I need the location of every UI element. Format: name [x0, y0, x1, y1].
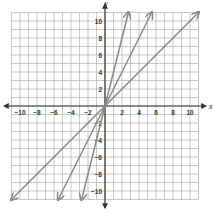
y-tick-label: 6 — [98, 52, 102, 59]
x-tick-label: −8 — [33, 109, 41, 116]
x-tick-label: 6 — [154, 109, 158, 116]
y-tick-label: −6 — [95, 154, 103, 161]
x-tick-label: 8 — [171, 109, 175, 116]
y-tick-label: −10 — [91, 188, 102, 195]
y-tick-label: −8 — [95, 171, 103, 178]
x-tick-label: 2 — [120, 109, 124, 116]
coordinate-plane: xy−10−8−6−4−2246810−10−8−6−4−2246810 — [0, 0, 213, 213]
y-tick-label: 10 — [95, 18, 103, 25]
y-tick-label: 4 — [98, 69, 102, 76]
x-tick-label: −4 — [67, 109, 75, 116]
x-tick-label: 10 — [186, 109, 194, 116]
y-tick-label: 2 — [98, 86, 102, 93]
x-tick-label: −6 — [50, 109, 58, 116]
x-tick-label: 4 — [137, 109, 141, 116]
x-tick-label: −10 — [14, 109, 25, 116]
y-axis-label: y — [103, 0, 108, 8]
x-tick-label: −2 — [84, 109, 92, 116]
y-tick-label: 8 — [98, 35, 102, 42]
x-axis-label: x — [208, 102, 213, 111]
